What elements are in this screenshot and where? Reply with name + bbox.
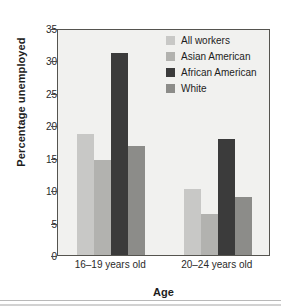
x-axis-tick-label: 20–24 years old <box>181 259 252 270</box>
bar <box>94 160 111 255</box>
y-axis-tick-mark <box>51 224 57 225</box>
legend-label: African American <box>181 67 257 78</box>
plot-area: All workersAsian AmericanAfrican America… <box>57 29 270 256</box>
legend-item: White <box>166 83 257 94</box>
legend-item: Asian American <box>166 51 257 62</box>
legend-item: All workers <box>166 35 257 46</box>
bar <box>77 134 94 255</box>
y-axis-tick-mark <box>51 191 57 192</box>
bar <box>184 189 201 255</box>
legend-swatch-icon <box>166 68 175 77</box>
y-axis-title: Percentage unemployed <box>15 17 27 187</box>
bar <box>201 214 218 255</box>
legend-label: All workers <box>181 35 230 46</box>
bar <box>111 53 128 255</box>
legend-swatch-icon <box>166 36 175 45</box>
chart-legend: All workersAsian AmericanAfrican America… <box>166 35 257 94</box>
legend-swatch-icon <box>166 84 175 93</box>
y-axis-tick-mark <box>51 29 57 30</box>
y-axis: 05101520253035 <box>0 0 57 306</box>
bar <box>218 139 235 255</box>
chart-figure: 05101520253035 Percentage unemployed All… <box>0 0 281 306</box>
bar-group <box>58 30 165 255</box>
bar <box>235 197 252 255</box>
y-axis-tick-mark <box>51 94 57 95</box>
bar <box>128 146 145 255</box>
legend-label: Asian American <box>181 51 250 62</box>
legend-item: African American <box>166 67 257 78</box>
page-rule-top <box>0 300 281 301</box>
y-axis-tick-mark <box>51 256 57 257</box>
legend-label: White <box>181 83 207 94</box>
x-axis-title: Age <box>57 286 270 298</box>
y-axis-tick-mark <box>51 126 57 127</box>
x-axis-tick-label: 16–19 years old <box>75 259 146 270</box>
y-axis-tick-mark <box>51 159 57 160</box>
legend-swatch-icon <box>166 52 175 61</box>
y-axis-tick-mark <box>51 61 57 62</box>
